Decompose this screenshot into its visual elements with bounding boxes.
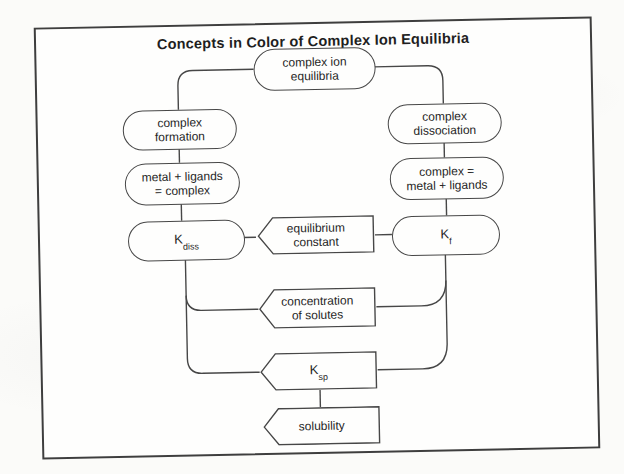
node-label: complex ion equilibria xyxy=(282,54,347,84)
node-k-f: Kf xyxy=(392,214,501,256)
node-label: solubility xyxy=(299,418,345,433)
node-label: Ksp xyxy=(309,362,328,380)
node-label: complex dissociation xyxy=(413,108,476,138)
edge-equilibria-to-formation xyxy=(178,69,255,110)
node-label: Kf xyxy=(440,227,452,245)
node-complex-formation: complex formation xyxy=(122,109,237,151)
node-solubility: solubility xyxy=(262,406,381,446)
node-complex-dissociation: complex dissociation xyxy=(387,102,502,144)
node-complex-ion-equilibria: complex ion equilibria xyxy=(253,47,376,91)
node-label: equilibrium constant xyxy=(287,220,346,250)
node-label: Kdiss xyxy=(174,232,199,250)
node-label: metal + ligands = complex xyxy=(142,168,224,199)
edge-kdiss-to-concentration xyxy=(186,294,258,310)
edge-kdiss-to-ksp xyxy=(185,257,259,373)
node-label: complex = metal + ligands xyxy=(406,163,488,194)
edge-equilibria-to-dissociation xyxy=(374,65,444,104)
node-dissociation-equation: complex = metal + ligands xyxy=(389,156,504,200)
node-k-sp: Ksp xyxy=(259,351,378,391)
edge-kf-to-ksp xyxy=(375,253,447,369)
node-label: complex formation xyxy=(154,115,205,145)
node-equilibrium-constant: equilibrium constant xyxy=(257,215,376,255)
node-concentration-of-solutes: concentration of solutes xyxy=(258,287,377,329)
scanned-diagram-frame: Concepts in Color of Complex Ion Equilib… xyxy=(34,16,601,459)
node-label: concentration of solutes xyxy=(281,293,354,323)
edge-kf-to-concentration xyxy=(376,280,446,306)
node-formation-equation: metal + ligands = complex xyxy=(124,162,240,206)
node-k-diss: Kdiss xyxy=(128,219,246,261)
